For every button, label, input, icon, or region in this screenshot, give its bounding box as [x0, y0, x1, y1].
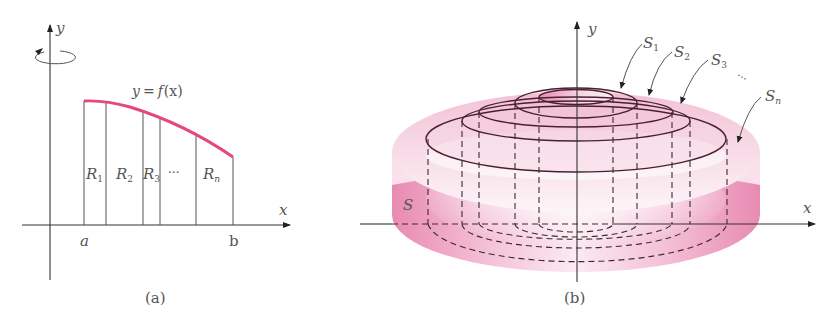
- x-axis-label-a: x: [279, 201, 288, 219]
- x-axis-label-b: x: [803, 199, 812, 217]
- shell-label-3: S3: [711, 51, 727, 70]
- shell-1-pointer: [621, 44, 642, 88]
- figure-canvas: y x y=f(x) R1 R2 R3 ··· Rn a b (a): [0, 0, 831, 324]
- figure-a: y x y=f(x) R1 R2 R3 ··· Rn a b (a): [22, 19, 290, 307]
- region-label-1: R1: [85, 165, 103, 184]
- shell-label-2: S2: [674, 43, 690, 62]
- y-axis-label-a: y: [55, 19, 65, 37]
- solid-label: S: [403, 196, 413, 214]
- bound-label-a: a: [80, 232, 89, 250]
- caption-a: (a): [145, 289, 166, 307]
- shell-2-pointer: [649, 52, 672, 95]
- shell-label-n: Sn: [765, 87, 781, 106]
- y-axis-label-b: y: [587, 20, 597, 38]
- bound-label-b: b: [229, 232, 239, 250]
- caption-b: (b): [564, 289, 585, 307]
- region-label-ellipsis: ···: [168, 166, 179, 180]
- figure-b: y x S1 S2 S3 ··· Sn S (b): [360, 20, 815, 307]
- rotation-arrow-icon: [35, 48, 75, 64]
- shell-label-ellipsis: ···: [734, 69, 750, 86]
- region-label-3: R3: [142, 165, 160, 184]
- region-label-n: Rn: [202, 165, 220, 184]
- strip-lines: [84, 101, 233, 225]
- shell-3-pointer: [681, 60, 708, 103]
- region-label-2: R2: [115, 165, 133, 184]
- curve-label: y=f(x): [131, 83, 183, 99]
- shell-label-1: S1: [643, 34, 659, 53]
